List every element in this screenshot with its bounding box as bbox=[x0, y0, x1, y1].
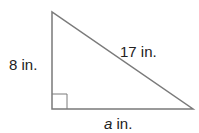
base-unit: in. bbox=[112, 115, 132, 132]
vertical-leg-label: 8 in. bbox=[9, 57, 37, 72]
base-label: a in. bbox=[104, 116, 132, 131]
right-angle-marker bbox=[52, 94, 67, 109]
right-triangle bbox=[52, 12, 193, 109]
hypotenuse-label: 17 in. bbox=[120, 44, 157, 59]
